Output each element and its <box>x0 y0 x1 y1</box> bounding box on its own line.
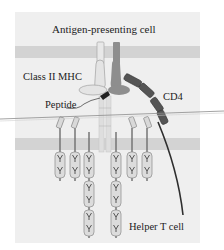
cd4-label: CD4 <box>163 92 183 103</box>
helper-t-cell-label: Helper T cell <box>129 222 184 233</box>
diagram: Antigen-presenting cell Class II MHC Pep… <box>0 0 224 250</box>
peptide-label: Peptide <box>45 100 77 111</box>
mhc-label: Class II MHC <box>23 72 82 83</box>
apc-membrane <box>15 46 200 58</box>
apc-label: Antigen-presenting cell <box>52 24 156 35</box>
